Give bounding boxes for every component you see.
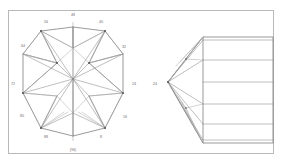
profile-outline [168,37,273,143]
profile-tier-lines [203,40,273,140]
facet-label: 88 [44,135,48,139]
facet-label: 24 [132,82,136,86]
facet-label: 32 [122,45,126,49]
facet-label: 8 [100,135,102,139]
facet-label: 40 [99,20,103,24]
profile-label: 24 [153,82,157,86]
main-facets [23,27,123,136]
facet-label: 56 [44,20,48,24]
gem-diagram-page: 48 56 40 64 32 72 24 80 16 88 8 (96) [0,0,282,163]
profile-pavilion-facets [168,37,203,143]
facet-label: (96) [70,148,76,152]
crown-view: 48 56 40 64 32 72 24 80 16 88 8 (96) [11,13,136,152]
facet-label: 80 [20,114,24,118]
facet-label: 64 [21,44,25,48]
profile-view: 24 [153,37,273,143]
facet-label: 16 [123,115,127,119]
facet-label: 72 [11,82,15,86]
facet-label: 48 [71,13,75,17]
diagram-frame: 48 56 40 64 32 72 24 80 16 88 8 (96) [0,0,282,163]
